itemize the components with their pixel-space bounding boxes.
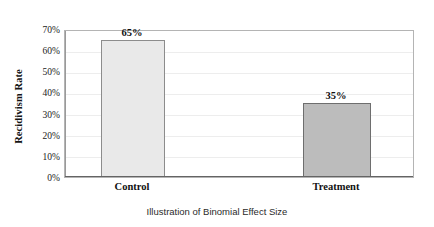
x-axis-line <box>65 176 413 177</box>
y-tick-label: 20% <box>28 131 60 141</box>
y-tick-label: 40% <box>28 88 60 98</box>
y-axis-tick-labels: 70% 60% 50% 40% 30% 20% 10% 0% <box>28 30 60 178</box>
y-tick-label: 60% <box>28 46 60 56</box>
bar-control <box>101 40 165 177</box>
bar-treatment <box>303 103 371 177</box>
y-tick-label: 30% <box>28 110 60 120</box>
y-axis-title-text: Recidivism Rate <box>13 69 24 144</box>
y-tick-label: 50% <box>28 67 60 77</box>
y-axis-line <box>65 31 66 177</box>
y-tick-label: 70% <box>28 25 60 35</box>
category-label-treatment: Treatment <box>302 181 370 192</box>
plot-area <box>64 30 414 178</box>
y-tick-label: 0% <box>28 173 60 183</box>
y-tick-label: 10% <box>28 152 60 162</box>
value-label-treatment: 35% <box>302 90 370 101</box>
y-axis-title: Recidivism Rate <box>9 42 27 170</box>
chart-caption: Illustration of Binomial Effect Size <box>0 206 434 217</box>
category-label-control: Control <box>100 181 164 192</box>
bar-chart: Recidivism Rate 70% 60% 50% 40% 30% 20% … <box>0 0 434 227</box>
value-label-control: 65% <box>100 27 164 38</box>
